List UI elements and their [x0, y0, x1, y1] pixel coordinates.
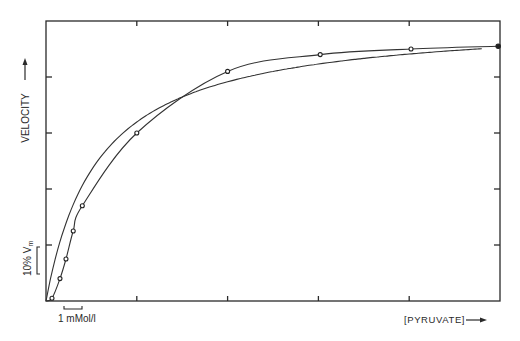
plot-frame — [46, 21, 500, 301]
data-points — [50, 44, 500, 300]
data-point-marker — [80, 204, 84, 208]
data-point-marker — [318, 53, 322, 57]
hyperbolic-curve — [46, 49, 482, 301]
data-point-marker — [50, 296, 54, 300]
data-point-marker — [64, 257, 68, 261]
data-point-marker — [135, 131, 139, 135]
axis-ticks — [46, 21, 500, 301]
y-axis-arrow-icon — [23, 58, 28, 80]
data-point-marker — [496, 44, 500, 48]
x-scale-bar: 1 mMol/l — [58, 306, 96, 324]
sigmoidal-curve — [46, 46, 498, 301]
y-axis-label: VELOCITY — [20, 93, 31, 143]
x-scale-label: 1 mMol/l — [58, 313, 96, 324]
x-axis-label-group: [PYRUVATE] — [404, 314, 487, 325]
x-axis-label: [PYRUVATE] — [404, 314, 465, 325]
data-point-marker — [409, 47, 413, 51]
data-point-marker — [226, 69, 230, 73]
chart: VELOCITY 10% Vm 1 mMol/l [PYRUVATE] — [0, 0, 520, 341]
y-axis-label-group: VELOCITY — [20, 58, 31, 143]
y-scale-label: 10% Vm — [22, 241, 34, 276]
data-point-marker — [58, 277, 62, 281]
x-axis-arrow-icon — [466, 318, 487, 323]
data-point-marker — [71, 229, 75, 233]
y-scale-bar: 10% Vm — [22, 241, 40, 276]
